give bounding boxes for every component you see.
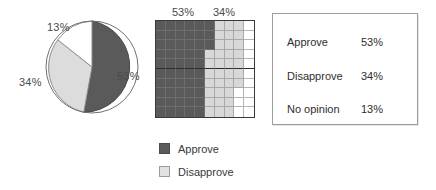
waffle-cell-disapprove [215,69,225,79]
waffle-label-disapprove: 34% [213,6,235,18]
waffle-cell-disapprove [215,59,225,69]
waffle-cell-approve [195,107,205,117]
waffle-cell-approve [176,50,186,60]
table-cell-value: 34% [361,70,383,82]
waffle-cell-no-opinion [244,50,254,60]
waffle-cell-disapprove [215,40,225,50]
waffle-cell-approve [156,69,166,79]
pie-chart [44,19,140,115]
waffle-cell-disapprove [225,107,235,117]
waffle-cell-disapprove [234,59,244,69]
waffle-cell-disapprove [234,79,244,89]
waffle-cell-disapprove [234,50,244,60]
waffle-grid [155,20,255,118]
waffle-cell-approve [176,79,186,89]
table-cell-label: Approve [287,36,328,48]
waffle-cell-approve [156,50,166,60]
table-row: Approve 53% [273,33,417,51]
waffle-cell-disapprove [215,31,225,41]
waffle-cell-disapprove [225,79,235,89]
pie-label-approve: 53% [117,70,140,82]
waffle-cell-approve [176,98,186,108]
waffle-cell-approve [185,107,195,117]
waffle-cell-approve [185,50,195,60]
pie-label-no-opinion: 13% [47,21,70,33]
waffle-cell-disapprove [234,31,244,41]
waffle-cell-disapprove [234,40,244,50]
table-cell-label: No opinion [287,103,340,115]
waffle-cell-no-opinion [244,59,254,69]
legend-label-disapprove: Disapprove [178,166,234,178]
waffle-cell-approve [185,31,195,41]
waffle-cell-disapprove [215,107,225,117]
waffle-cell-approve [156,88,166,98]
waffle-cell-approve [166,31,176,41]
table-row: No opinion 13% [273,100,417,118]
legend-label-approve: Approve [178,143,219,155]
waffle-cell-approve [156,59,166,69]
legend-item-approve: Approve [159,140,234,157]
waffle-cell-approve [156,21,166,31]
waffle-cell-approve [166,98,176,108]
waffle-cell-no-opinion [234,98,244,108]
waffle-cell-approve [166,79,176,89]
waffle-cell-disapprove [225,69,235,79]
waffle-cell-approve [195,31,205,41]
waffle-cell-approve [166,107,176,117]
waffle-cell-approve [185,21,195,31]
pie-label-disapprove: 34% [19,76,42,88]
waffle-cell-approve [205,31,215,41]
waffle-cell-disapprove [205,79,215,89]
waffle-cell-approve [156,79,166,89]
waffle-cell-approve [185,79,195,89]
waffle-cell-disapprove [215,21,225,31]
waffle-cell-approve [185,69,195,79]
waffle-cell-disapprove [205,88,215,98]
waffle-cell-approve [185,59,195,69]
waffle-cell-approve [195,79,205,89]
waffle-cell-disapprove [205,107,215,117]
table-row: Disapprove 34% [273,67,417,85]
waffle-cell-no-opinion [244,79,254,89]
waffle-cell-approve [185,88,195,98]
waffle-cell-no-opinion [244,107,254,117]
waffle-cell-no-opinion [244,88,254,98]
waffle-cell-approve [166,40,176,50]
legend-item-disapprove: Disapprove [159,163,234,180]
waffle-cell-no-opinion [244,21,254,31]
waffle-cell-disapprove [225,88,235,98]
waffle-cell-approve [176,21,186,31]
waffle-cell-disapprove [215,98,225,108]
waffle-cell-no-opinion [244,31,254,41]
waffle-cell-disapprove [225,40,235,50]
waffle-cell-approve [195,50,205,60]
waffle-cell-approve [156,98,166,108]
waffle-cell-approve [205,40,215,50]
waffle-cell-disapprove [215,88,225,98]
waffle-cell-disapprove [234,69,244,79]
waffle-cell-disapprove [225,59,235,69]
waffle-cell-approve [156,31,166,41]
table-cell-value: 53% [361,36,383,48]
waffle-cell-approve [156,107,166,117]
legend: Approve Disapprove [159,140,234,186]
waffle-cell-approve [166,69,176,79]
summary-table: Approve 53% Disapprove 34% No opinion 13… [272,13,418,125]
waffle-cell-approve [176,107,186,117]
waffle-cell-approve [176,40,186,50]
waffle-cell-approve [176,69,186,79]
waffle-cell-disapprove [225,98,235,108]
waffle-cell-disapprove [205,59,215,69]
waffle-cell-approve [185,40,195,50]
waffle-cell-disapprove [215,50,225,60]
dark-gray-swatch-icon [159,143,170,154]
waffle-cell-no-opinion [244,98,254,108]
waffle-cell-approve [176,31,186,41]
waffle-cell-approve [205,21,215,31]
waffle-cell-approve [176,88,186,98]
waffle-cell-approve [195,88,205,98]
waffle-chart-panel: 53% 34% Approve Disapprove [150,0,270,190]
waffle-cell-disapprove [234,21,244,31]
waffle-cell-approve [195,21,205,31]
waffle-cell-approve [166,21,176,31]
